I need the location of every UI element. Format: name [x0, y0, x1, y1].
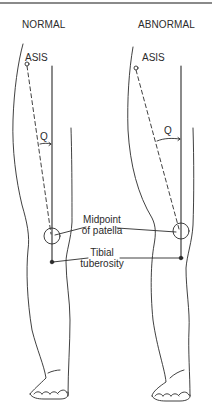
- tibial-callout-line2: tuberosity: [78, 258, 126, 269]
- q-label-abnormal: Q: [164, 125, 172, 136]
- panel-title-normal: NORMAL: [22, 19, 65, 30]
- panel-title-abnormal: ABNORMAL: [138, 19, 195, 30]
- tibial-callout-line1: Tibial: [78, 247, 126, 258]
- normal-asis-patella-line: [27, 66, 51, 234]
- patella-callout-line2: of patella: [78, 225, 126, 236]
- asis-label-normal: ASIS: [25, 52, 48, 63]
- abnormal-asis-marker: [134, 66, 138, 70]
- patella-callout-line1: Midpoint: [78, 214, 126, 225]
- tibial-callout: Tibial tuberosity: [78, 247, 126, 269]
- abnormal-q-arc: [157, 138, 180, 141]
- q-label-normal: Q: [40, 131, 48, 142]
- asis-label-abnormal: ASIS: [142, 52, 165, 63]
- normal-leg-outline: [13, 44, 72, 399]
- normal-q-arc: [40, 143, 51, 144]
- patella-callout: Midpoint of patella: [78, 214, 126, 236]
- abnormal-asis-patella-line: [136, 70, 179, 229]
